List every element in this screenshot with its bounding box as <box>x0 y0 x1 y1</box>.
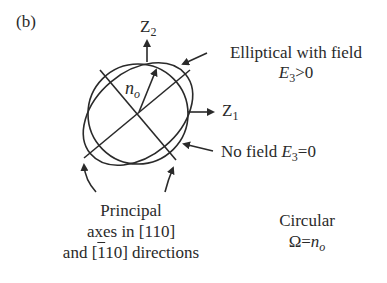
elliptical-pointer-arrow <box>183 53 207 64</box>
principal-pointer-left-arrow <box>84 165 96 192</box>
no-field-pointer-arrow <box>184 144 213 151</box>
circular-annotation: Circular Ω=no <box>262 210 352 252</box>
principal-pointer-right-arrow <box>165 168 173 192</box>
z2-axis-label: Z2 <box>140 17 156 37</box>
no-field-annotation: No field E3=0 <box>221 142 316 162</box>
z1-axis-label: Z1 <box>222 101 238 121</box>
radius-label: no <box>125 78 140 98</box>
principal-axes-annotation: Principal axes in [110] and [110] direct… <box>46 200 216 263</box>
elliptical-annotation: Elliptical with field E3>0 <box>216 43 376 83</box>
